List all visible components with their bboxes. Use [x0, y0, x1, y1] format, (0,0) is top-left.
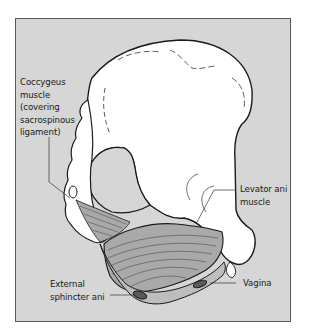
label-line: (covering: [20, 101, 75, 114]
label-line: sacrospinous: [20, 114, 75, 127]
label-external-sphincter-ani: External sphincter ani: [50, 278, 105, 303]
label-coccygeus-muscle: Coccygeus muscle (covering sacrospinous …: [20, 76, 75, 139]
label-vagina: Vagina: [243, 277, 271, 290]
label-line: muscle: [20, 89, 75, 102]
label-line: Vagina: [243, 277, 271, 290]
label-line: Coccygeus: [20, 76, 75, 89]
label-line: sphincter ani: [50, 291, 105, 304]
label-levator-ani-muscle: Levator ani muscle: [240, 183, 287, 208]
label-line: ligament): [20, 126, 75, 139]
label-line: External: [50, 278, 105, 291]
label-line: Levator ani: [240, 183, 287, 196]
label-line: muscle: [240, 196, 287, 209]
pubic-symphysis: [226, 262, 235, 278]
